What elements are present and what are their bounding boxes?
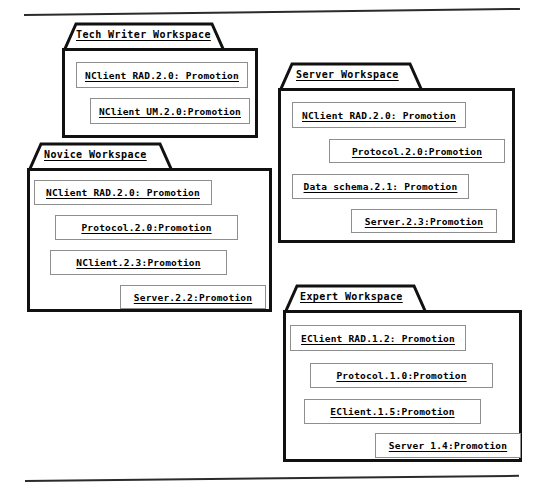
bottom-rule: [25, 475, 519, 482]
workspace-item[interactable]: Protocol.1.0:Promotion: [310, 363, 493, 388]
package-body-server-workspace: NClient RAD.2.0: PromotionProtocol.2.0:P…: [278, 88, 515, 243]
workspace-item-label: NClient.2.3:Promotion: [51, 257, 226, 268]
workspace-item[interactable]: Data schema.2.1: Promotion: [292, 174, 469, 199]
workspace-item[interactable]: NClient.2.3:Promotion: [50, 250, 227, 275]
workspace-item[interactable]: Server.2.3:Promotion: [351, 209, 497, 233]
workspace-item-label: NClient RAD.2.0: Promotion: [77, 70, 247, 81]
workspace-item-label: EClient.1.5:Promotion: [305, 406, 480, 417]
workspace-item-label: Protocol.2.0:Promotion: [56, 222, 237, 233]
top-rule: [24, 8, 520, 16]
package-body-expert-workspace: EClient RAD.1.2: PromotionProtocol.1.0:P…: [283, 310, 522, 462]
workspace-item[interactable]: EClient.1.5:Promotion: [304, 399, 481, 424]
workspace-item-label: Data schema.2.1: Promotion: [293, 181, 468, 192]
workspace-item[interactable]: NClient RAD.2.0: Promotion: [34, 180, 212, 205]
package-expert-workspace[interactable]: Expert WorkspaceEClient RAD.1.2: Promoti…: [283, 310, 522, 462]
workspace-item-label: Protocol.1.0:Promotion: [311, 370, 492, 381]
workspace-item-label: NClient UM.2.0:Promotion: [91, 106, 249, 117]
workspace-item-label: Server 1.4:Promotion: [376, 440, 520, 451]
package-server-workspace[interactable]: Server WorkspaceNClient RAD.2.0: Promoti…: [278, 88, 515, 243]
workspace-item[interactable]: NClient RAD.2.0: Promotion: [292, 102, 466, 128]
workspace-item[interactable]: EClient RAD.1.2: Promotion: [290, 325, 466, 351]
workspace-item[interactable]: Server 1.4:Promotion: [375, 433, 521, 458]
workspace-item-label: EClient RAD.1.2: Promotion: [291, 333, 465, 344]
workspace-item[interactable]: NClient UM.2.0:Promotion: [90, 98, 250, 124]
workspace-item[interactable]: Protocol.2.0:Promotion: [55, 215, 238, 240]
workspace-item-label: Server.2.3:Promotion: [352, 216, 496, 227]
workspace-item[interactable]: Server.2.2:Promotion: [120, 285, 266, 309]
workspace-item-label: NClient RAD.2.0: Promotion: [293, 110, 465, 121]
workspace-item[interactable]: NClient RAD.2.0: Promotion: [76, 62, 248, 88]
package-body-tech-writer-workspace: NClient RAD.2.0: PromotionNClient UM.2.0…: [62, 48, 258, 138]
package-body-novice-workspace: NClient RAD.2.0: PromotionProtocol.2.0:P…: [27, 168, 272, 312]
package-tech-writer-workspace[interactable]: Tech Writer WorkspaceNClient RAD.2.0: Pr…: [62, 48, 258, 138]
package-novice-workspace[interactable]: Novice WorkspaceNClient RAD.2.0: Promoti…: [27, 168, 272, 312]
workspace-item[interactable]: Protocol.2.0:Promotion: [329, 139, 505, 163]
workspace-item-label: Server.2.2:Promotion: [121, 292, 265, 303]
workspace-item-label: Protocol.2.0:Promotion: [330, 146, 504, 157]
package-diagram-canvas: Tech Writer WorkspaceNClient RAD.2.0: Pr…: [0, 0, 545, 491]
workspace-item-label: NClient RAD.2.0: Promotion: [35, 187, 211, 198]
